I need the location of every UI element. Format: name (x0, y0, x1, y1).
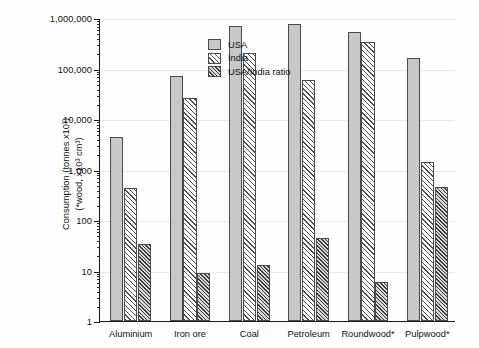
y-tick-minor (97, 287, 101, 288)
y-tick-minor (97, 81, 101, 82)
y-tick-minor (97, 140, 101, 141)
y-tick-minor (97, 125, 101, 126)
bar-usa (407, 58, 420, 321)
y-tick-label: 1 (87, 317, 92, 327)
y-tick-minor (97, 77, 101, 78)
y-tick-minor (97, 307, 101, 308)
legend-swatch-india-icon (208, 53, 221, 64)
chart-container: Consumption (tonnes x10³) (*wood, x10³ c… (0, 0, 479, 348)
y-tick-minor (97, 90, 101, 91)
y-tick-minor (97, 206, 101, 207)
y-tick-minor (97, 34, 101, 35)
y-tick-minor (97, 45, 101, 46)
y-tick-minor (97, 197, 101, 198)
bar-usa (110, 137, 123, 321)
bar-india (183, 98, 196, 321)
bar-india (302, 80, 315, 321)
y-tick-label: 10 (81, 267, 92, 277)
y-tick-minor (97, 182, 101, 183)
bar-india (421, 162, 434, 321)
y-tick-major (94, 19, 100, 20)
y-tick-minor (97, 128, 101, 129)
y-tick-minor (97, 122, 101, 123)
y-tick-label: 1,000,000 (50, 14, 92, 24)
gridline (100, 221, 455, 222)
y-tick-minor (97, 39, 101, 40)
bar-group (288, 19, 329, 321)
y-tick-minor (97, 232, 101, 233)
y-tick-minor (97, 175, 101, 176)
y-tick-major (94, 322, 100, 323)
y-tick-minor (97, 283, 101, 284)
legend-item-usa: USA (208, 39, 291, 50)
gridline (100, 171, 455, 172)
y-tick-label: 100 (76, 216, 92, 226)
bar-group (170, 19, 211, 321)
y-tick-minor (97, 191, 101, 192)
y-tick-minor (97, 146, 101, 147)
y-tick-label: 1,000 (68, 166, 92, 176)
x-tick-label: Coal (240, 329, 259, 339)
legend-label-usa: USA (228, 40, 247, 50)
chart-legend: USA India USA/India ratio (208, 39, 291, 77)
y-tick-major (94, 221, 100, 222)
y-tick-minor (97, 27, 101, 28)
y-tick-minor (97, 274, 101, 275)
gridline (100, 120, 455, 121)
bar-india (243, 53, 256, 321)
x-tick-label: Petroleum (287, 329, 329, 339)
bar-group (348, 19, 389, 321)
gridline (100, 272, 455, 273)
x-tick-label: Roundwood* (341, 329, 394, 339)
legend-swatch-ratio-icon (208, 66, 221, 77)
bar-ratio (435, 187, 448, 321)
y-tick-minor (97, 85, 101, 86)
bar-ratio (197, 273, 210, 321)
y-tick-minor (97, 135, 101, 136)
y-tick-minor (97, 247, 101, 248)
bar-usa (348, 32, 361, 321)
y-tick-minor (97, 226, 101, 227)
bar-ratio (138, 244, 151, 321)
bar-group (110, 19, 151, 321)
y-tick-minor (97, 74, 101, 75)
bar-ratio (375, 282, 388, 321)
y-tick-minor (97, 30, 101, 31)
y-tick-minor (97, 223, 101, 224)
y-tick-minor (97, 186, 101, 187)
y-tick-label: 10,000 (63, 115, 92, 125)
y-tick-minor (97, 229, 101, 230)
bar-usa (170, 76, 183, 321)
bar-india (361, 42, 374, 321)
y-tick-minor (97, 21, 101, 22)
legend-label-india: India (228, 53, 248, 63)
y-tick-minor (97, 54, 101, 55)
y-tick-minor (97, 105, 101, 106)
legend-swatch-usa-icon (208, 39, 221, 50)
bar-ratio (257, 265, 270, 321)
legend-item-india: India (208, 53, 291, 64)
y-tick-minor (97, 279, 101, 280)
y-tick-minor (97, 298, 101, 299)
plot-area: 1101001,00010,000100,0001,000,000 Alumin… (99, 19, 455, 322)
y-tick-major (94, 171, 100, 172)
y-tick-minor (97, 173, 101, 174)
bar-ratio (316, 238, 329, 321)
y-tick-major (94, 272, 100, 273)
y-tick-minor (97, 72, 101, 73)
y-tick-minor (97, 241, 101, 242)
y-tick-major (94, 70, 100, 71)
legend-item-ratio: USA/India ratio (208, 66, 291, 77)
y-tick-label: 100,000 (58, 65, 92, 75)
y-tick-minor (97, 292, 101, 293)
y-tick-minor (97, 24, 101, 25)
y-tick-major (94, 120, 100, 121)
x-tick-label: Iron ore (174, 329, 206, 339)
gridline (100, 19, 455, 20)
y-tick-minor (97, 178, 101, 179)
x-tick-label: Pulpwood* (405, 329, 449, 339)
y-tick-minor (97, 155, 101, 156)
y-tick-minor (97, 131, 101, 132)
bar-india (124, 188, 137, 321)
y-tick-minor (97, 276, 101, 277)
